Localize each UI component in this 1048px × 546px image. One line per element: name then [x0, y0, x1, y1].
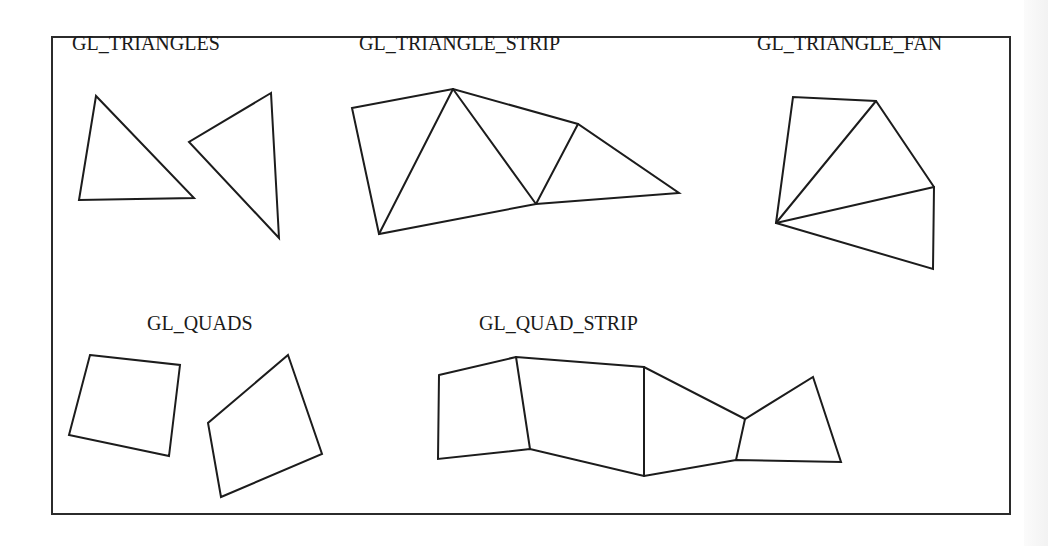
label-gl-triangle-strip: GL_TRIANGLE_STRIP [359, 32, 560, 54]
label-gl-triangle-fan: GL_TRIANGLE_FAN [757, 32, 942, 54]
quad-strip-edge [736, 419, 745, 460]
strip-edge [379, 89, 453, 234]
gl-quad-strip-shape [438, 357, 841, 476]
triangle-2 [189, 93, 279, 238]
triangle-1 [79, 96, 194, 200]
gl-quads-shape [69, 355, 322, 497]
label-gl-triangles: GL_TRIANGLES [72, 32, 220, 54]
strip-outline [352, 89, 679, 234]
gl-triangles-shape [79, 93, 279, 238]
gl-triangle-fan-shape [776, 97, 934, 269]
label-gl-quads: GL_QUADS [147, 312, 253, 334]
gl-triangle-strip-shape [352, 89, 679, 234]
fan-edge [776, 187, 934, 223]
diagram-frame [52, 37, 1010, 514]
primitives-diagram: GL_TRIANGLES GL_TRIANGLE_STRIP GL_TRIANG… [0, 0, 1048, 546]
label-gl-quad-strip: GL_QUAD_STRIP [479, 312, 638, 334]
strip-edge [536, 124, 578, 204]
strip-edge [453, 89, 536, 204]
quad-2 [208, 355, 322, 497]
quad-1 [69, 355, 180, 456]
fan-outline [776, 97, 934, 269]
quad-strip-outline [438, 357, 841, 476]
quad-strip-edge [516, 357, 530, 449]
